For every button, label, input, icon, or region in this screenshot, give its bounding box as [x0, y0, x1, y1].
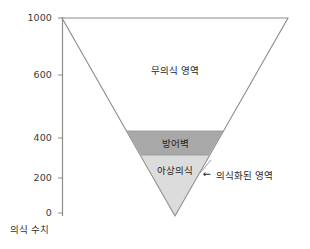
y-tick-label-0: 0: [12, 207, 52, 218]
y-axis-caption: 의식 수치: [10, 222, 49, 236]
y-tick-label-400: 400: [12, 132, 52, 143]
y-tick-label-600: 600: [12, 69, 52, 80]
callout-arrow-icon: ←: [203, 168, 211, 179]
region-label-unconscious: 무의식 영역: [120, 63, 230, 77]
callout-label-conscious-area: 의식화된 영역: [216, 168, 273, 182]
y-tick-label-1000: 1000: [12, 12, 52, 23]
diagram-canvas: 1000 600 400 200 0 의식 수치 무의식 영역 방어벽 아상의식…: [0, 0, 310, 249]
y-axis-ticks: [58, 18, 63, 213]
region-label-ego-consciousness: 아상의식: [140, 163, 210, 177]
y-tick-label-200: 200: [12, 172, 52, 183]
region-label-defense-wall: 방어벽: [140, 136, 210, 150]
